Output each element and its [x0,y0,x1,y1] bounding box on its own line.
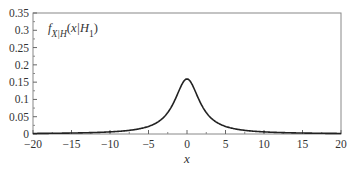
x-tick-label: −15 [63,138,81,150]
x-tick-label: −10 [101,138,119,150]
chart: 00.050.10.150.20.250.30.35 −20−15−10−505… [0,0,350,176]
x-tick-label: 10 [258,138,270,150]
y-tick-label: 0.2 [15,59,30,71]
x-tick-label: 15 [297,138,309,150]
x-tick-label: 20 [335,138,347,150]
legend-annotation: fX|H(x|H1) [48,21,98,39]
x-axis-label: x [183,151,190,166]
x-tick-label: −5 [142,138,154,150]
x-tick-label: 5 [223,138,229,150]
data-line [33,79,341,133]
y-tick-label: 0.25 [9,42,29,54]
y-tick-label: 0.1 [15,93,30,105]
y-tick-label: 0.05 [9,111,29,123]
y-tick-label: 0.3 [15,24,30,36]
y-tick-label: 0.15 [9,76,29,88]
x-tick-label: 0 [184,138,190,150]
y-tick-label: 0.35 [9,7,29,19]
x-tick-label: −20 [24,138,42,150]
